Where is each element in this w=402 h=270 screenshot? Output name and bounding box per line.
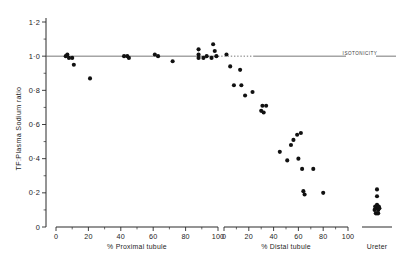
data-point-distal xyxy=(238,68,242,72)
data-point-proximal xyxy=(171,59,175,63)
data-point-proximal xyxy=(197,47,201,51)
data-point-distal xyxy=(300,167,304,171)
data-point-distal xyxy=(262,110,266,114)
data-point-proximal xyxy=(72,63,76,67)
y-axis-title: TF:Plasma Sodium ratio xyxy=(15,87,23,171)
y-axis-tick-label: 0·4 xyxy=(29,154,40,163)
distal-axis-tick-label: 0 xyxy=(222,232,226,241)
proximal-axis-tick-label: 40 xyxy=(117,232,125,241)
data-point-distal xyxy=(285,158,289,162)
distal-axis-title: % Distal tubule xyxy=(261,243,311,250)
data-point-proximal xyxy=(213,49,217,53)
data-point-proximal xyxy=(197,56,201,60)
data-point-ureter xyxy=(373,204,377,208)
data-point-distal xyxy=(296,157,300,161)
data-point-distal xyxy=(289,143,293,147)
y-axis-tick-label: 0·8 xyxy=(29,86,40,95)
y-axis-tick-label: 1·0 xyxy=(29,52,40,61)
distal-axis-tick-label: 40 xyxy=(269,232,277,241)
data-point-distal xyxy=(228,64,232,68)
distal-axis-tick-label: 100 xyxy=(342,232,355,241)
data-point-distal xyxy=(311,167,315,171)
data-point-distal xyxy=(278,150,282,154)
proximal-axis-tick-label: 60 xyxy=(149,232,157,241)
data-point-distal xyxy=(224,52,228,56)
data-point-distal xyxy=(295,133,299,137)
data-point-proximal xyxy=(211,42,215,46)
data-point-proximal xyxy=(70,56,74,60)
proximal-axis-tick-label: 20 xyxy=(84,232,92,241)
data-point-distal xyxy=(243,93,247,97)
data-point-ureter xyxy=(375,194,379,198)
data-point-distal xyxy=(260,104,264,108)
data-point-distal xyxy=(321,191,325,195)
distal-axis-tick-label: 60 xyxy=(294,232,302,241)
proximal-axis-tick-label: 80 xyxy=(181,232,189,241)
data-point-proximal xyxy=(127,56,131,60)
y-axis-tick-label: 1·2 xyxy=(29,18,40,27)
data-point-ureter xyxy=(377,204,381,208)
data-point-distal xyxy=(303,192,307,196)
data-point-distal xyxy=(291,138,295,142)
data-point-ureter xyxy=(375,187,379,191)
figure-container: 00·20·40·60·81·01·2TF:Plasma Sodium rati… xyxy=(0,0,402,270)
distal-axis-tick-label: 80 xyxy=(319,232,327,241)
data-point-distal xyxy=(264,104,268,108)
data-point-proximal xyxy=(88,76,92,80)
proximal-axis-tick-label: 0 xyxy=(54,232,58,241)
data-point-proximal xyxy=(156,54,160,58)
distal-axis-tick-label: 20 xyxy=(245,232,253,241)
y-axis-tick-label: 0·6 xyxy=(29,120,40,129)
data-point-distal xyxy=(239,83,243,87)
data-point-distal xyxy=(232,83,236,87)
proximal-axis-title: % Proximal tubule xyxy=(107,243,167,250)
y-axis-tick-label: 0·2 xyxy=(29,188,40,197)
isotonicity-label: ISOTONICITY xyxy=(343,51,378,56)
data-point-distal xyxy=(299,131,303,135)
data-point-proximal xyxy=(205,54,209,58)
data-point-ureter xyxy=(376,211,380,215)
y-axis-tick-label: 0 xyxy=(36,223,40,232)
data-point-proximal xyxy=(214,54,218,58)
data-point-distal xyxy=(250,90,254,94)
ureter-axis-title: Ureter xyxy=(367,243,388,250)
scatter-plot: 00·20·40·60·81·01·2TF:Plasma Sodium rati… xyxy=(0,0,402,270)
data-point-proximal xyxy=(209,56,213,60)
